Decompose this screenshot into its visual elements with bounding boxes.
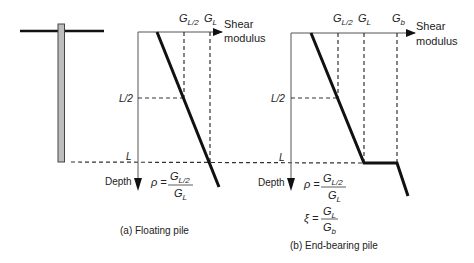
g-l-label: GL [358, 12, 371, 27]
half-depth-label: L/2 [271, 93, 285, 104]
svg-text:GL: GL [174, 187, 187, 202]
rho-formula: ρ = GL/2 GL [150, 170, 193, 202]
depth-arrow-icon [134, 178, 142, 191]
svg-text:ρ =: ρ = [150, 176, 167, 188]
x-axis-label-line1: Shear [224, 18, 254, 30]
caption-b: (b) End-bearing pile [290, 240, 378, 251]
pile-shear-modulus-diagram: GL/2 GL Shear modulus L/2 L Depth ρ = GL… [0, 0, 474, 263]
x-axis-label-line2: modulus [224, 32, 266, 44]
g-b-label: Gb [392, 12, 406, 27]
svg-text:GL: GL [328, 189, 341, 204]
svg-text:GL: GL [323, 205, 336, 220]
panel-a-floating-pile: GL/2 GL Shear modulus L/2 L Depth ρ = GL… [105, 12, 266, 236]
x-axis-label-line2: modulus [416, 35, 458, 47]
svg-text:Gb: Gb [323, 221, 337, 236]
svg-text:ρ =: ρ = [303, 178, 320, 190]
g-half-label: GL/2 [179, 12, 199, 27]
svg-text:GL/2: GL/2 [323, 172, 343, 187]
depth-l-label: L [279, 152, 285, 163]
pile-sketch [20, 24, 104, 162]
rho-formula: ρ = GL/2 GL [303, 172, 346, 204]
depth-l-label: L [126, 151, 132, 162]
pile-shaft [58, 24, 65, 162]
g-l-label: GL [204, 12, 217, 27]
panel-b-end-bearing-pile: GL/2 GL Gb Shear modulus L/2 L Depth ρ =… [258, 12, 458, 251]
g-half-label: GL/2 [333, 12, 353, 27]
y-axis-label: Depth [258, 177, 285, 188]
y-axis-label: Depth [105, 176, 132, 187]
pile-tip-level-dashed-line [71, 162, 364, 163]
caption-a: (a) Floating pile [120, 225, 189, 236]
depth-arrow-icon [287, 178, 295, 191]
xi-formula: ξ = GL Gb [304, 205, 338, 236]
half-depth-label: L/2 [119, 93, 133, 104]
svg-text:GL/2: GL/2 [170, 170, 190, 185]
svg-text:ξ =: ξ = [304, 212, 319, 225]
x-axis-label-line1: Shear [416, 20, 446, 32]
